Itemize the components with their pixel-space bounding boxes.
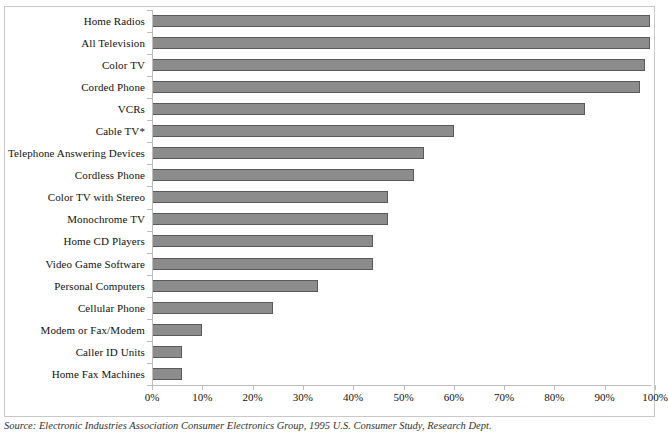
y-axis-tick <box>147 98 153 99</box>
category-label: VCRs <box>4 103 152 115</box>
y-axis-tick <box>147 209 153 210</box>
x-axis-label: 30% <box>293 391 313 404</box>
bar <box>152 324 202 336</box>
x-axis-tick <box>454 385 455 390</box>
bar <box>152 37 650 49</box>
category-label: Color TV <box>4 59 152 71</box>
category-label: Modem or Fax/Modem <box>4 324 152 336</box>
y-axis-tick <box>147 76 153 77</box>
bar <box>152 191 388 203</box>
y-axis-tick <box>147 142 153 143</box>
x-axis-tick <box>554 385 555 390</box>
category-label: Home CD Players <box>4 235 152 247</box>
bar <box>152 235 373 247</box>
source-text: Electronic Industries Association Consum… <box>39 420 492 431</box>
x-axis-label: 80% <box>544 391 564 404</box>
x-axis-label: 60% <box>444 391 464 404</box>
bar-track <box>152 142 655 164</box>
bar <box>152 368 182 380</box>
bar <box>152 147 424 159</box>
bar-track <box>152 120 655 142</box>
bar <box>152 15 650 27</box>
bar <box>152 302 273 314</box>
bar-track <box>152 208 655 230</box>
bar-track <box>152 54 655 76</box>
bar-row: Color TV with Stereo <box>4 186 655 208</box>
bar-row: Home Radios <box>4 10 655 32</box>
x-axis-tick <box>605 385 606 390</box>
bar-track <box>152 341 655 363</box>
y-axis-tick <box>147 54 153 55</box>
x-axis-label: 20% <box>243 391 263 404</box>
x-axis-label: 10% <box>192 391 212 404</box>
bar-track <box>152 230 655 252</box>
bar-row: Video Game Software <box>4 253 655 275</box>
y-axis-tick <box>147 319 153 320</box>
category-label: Corded Phone <box>4 81 152 93</box>
bar-track <box>152 32 655 54</box>
bar <box>152 59 645 71</box>
bar-row: Cable TV* <box>4 120 655 142</box>
bar-track <box>152 319 655 341</box>
bar-track <box>152 253 655 275</box>
bar <box>152 169 414 181</box>
bar-row: Corded Phone <box>4 76 655 98</box>
bar-row: Cordless Phone <box>4 164 655 186</box>
y-axis-tick <box>147 275 153 276</box>
source-note: Source: Electronic Industries Associatio… <box>4 420 655 432</box>
bar <box>152 346 182 358</box>
y-axis-tick <box>147 10 153 11</box>
y-axis-tick <box>147 32 153 33</box>
bar-row: VCRs <box>4 98 655 120</box>
plot-area: Home RadiosAll TelevisionColor TVCorded … <box>4 10 655 385</box>
x-axis-label: 100% <box>642 391 668 404</box>
y-axis-tick <box>147 164 153 165</box>
x-axis-tick <box>303 385 304 390</box>
bar <box>152 213 388 225</box>
bar-track <box>152 186 655 208</box>
bar-row: Cellular Phone <box>4 297 655 319</box>
category-label: Cordless Phone <box>4 169 152 181</box>
bar-row: Modem or Fax/Modem <box>4 319 655 341</box>
bar <box>152 258 373 270</box>
bar-row: Personal Computers <box>4 275 655 297</box>
y-axis-tick <box>147 253 153 254</box>
bar-row: Monochrome TV <box>4 208 655 230</box>
category-label: Telephone Answering Devices <box>4 147 152 159</box>
bar-row: All Television <box>4 32 655 54</box>
source-prefix: Source: <box>4 420 36 431</box>
bar <box>152 81 640 93</box>
bar-track <box>152 164 655 186</box>
category-label: All Television <box>4 37 152 49</box>
x-axis-label: 0% <box>145 391 160 404</box>
x-axis-tick <box>404 385 405 390</box>
x-axis-tick <box>655 385 656 390</box>
bar-track <box>152 275 655 297</box>
bar-track <box>152 98 655 120</box>
y-axis-tick <box>147 341 153 342</box>
x-axis-label: 90% <box>595 391 615 404</box>
category-label: Monochrome TV <box>4 213 152 225</box>
category-label: Video Game Software <box>4 258 152 270</box>
y-axis-line <box>152 10 153 385</box>
bar-rows: Home RadiosAll TelevisionColor TVCorded … <box>4 10 655 385</box>
bar-row: Home Fax Machines <box>4 363 655 385</box>
y-axis-tick <box>147 363 153 364</box>
bar-row: Color TV <box>4 54 655 76</box>
bar <box>152 280 318 292</box>
category-label: Cellular Phone <box>4 302 152 314</box>
x-axis-label: 40% <box>343 391 363 404</box>
x-axis-label: 50% <box>393 391 413 404</box>
x-axis-line <box>148 385 651 386</box>
bar-track <box>152 297 655 319</box>
bar-track <box>152 10 655 32</box>
bar-row: Telephone Answering Devices <box>4 142 655 164</box>
y-axis-tick <box>147 186 153 187</box>
x-axis-tick <box>353 385 354 390</box>
bar-track <box>152 76 655 98</box>
x-axis-tick <box>202 385 203 390</box>
category-label: Caller ID Units <box>4 346 152 358</box>
x-axis-tick <box>504 385 505 390</box>
bar-row: Caller ID Units <box>4 341 655 363</box>
